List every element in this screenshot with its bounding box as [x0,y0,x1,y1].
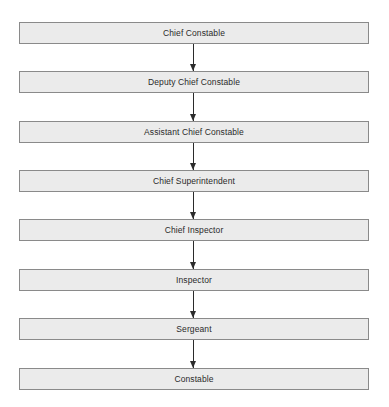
node-sergeant: Sergeant [19,318,369,340]
rank-hierarchy-diagram: Chief Constable Deputy Chief Constable A… [0,0,389,407]
node-chief-superintendent: Chief Superintendent [19,170,369,192]
arrow-down-icon [193,93,194,121]
arrow-down-icon [193,241,194,269]
node-label: Constable [174,374,213,384]
node-label: Chief Constable [163,28,225,38]
arrow-down-icon [193,340,194,368]
node-deputy-chief-constable: Deputy Chief Constable [19,71,369,93]
node-chief-constable: Chief Constable [19,22,369,44]
node-label: Assistant Chief Constable [144,127,244,137]
node-label: Chief Superintendent [153,176,235,186]
node-assistant-chief-constable: Assistant Chief Constable [19,121,369,143]
node-inspector: Inspector [19,269,369,291]
arrow-down-icon [193,291,194,318]
arrow-down-icon [193,143,194,170]
node-label: Sergeant [176,324,211,334]
node-label: Inspector [176,275,212,285]
node-label: Deputy Chief Constable [148,77,240,87]
arrow-down-icon [193,44,194,71]
node-constable: Constable [19,368,369,390]
arrow-down-icon [193,192,194,219]
node-label: Chief Inspector [165,225,224,235]
node-chief-inspector: Chief Inspector [19,219,369,241]
